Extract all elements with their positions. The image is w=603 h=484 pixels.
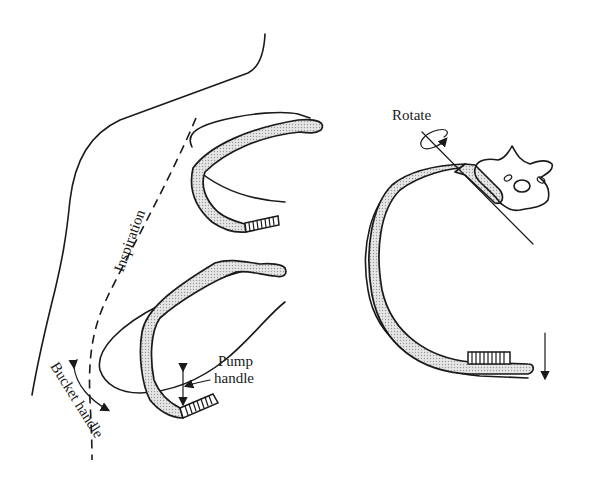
rotation-axis-line <box>422 132 533 244</box>
upper-rib-inner-line <box>195 168 285 202</box>
pump-handle-label-line2: handle <box>214 370 254 386</box>
rotate-label: Rotate <box>392 107 431 123</box>
right-rib-outer-tissue <box>366 187 528 378</box>
pump-handle-label-line1: Pump <box>218 353 253 369</box>
rib-mechanics-diagram: Pump handle Bucket handle Inspiration Ro… <box>0 0 603 484</box>
inspiration-label: Inspiration <box>111 207 148 274</box>
right-rib-bone <box>369 164 533 374</box>
bucket-handle-label: Bucket handle <box>47 359 106 441</box>
vertebra-facet-left <box>503 174 512 182</box>
rotate-arrow <box>421 130 447 149</box>
vertebral-foramen <box>514 180 530 192</box>
upper-rib-bone <box>192 120 323 233</box>
vertebra-facet-right <box>536 176 545 184</box>
